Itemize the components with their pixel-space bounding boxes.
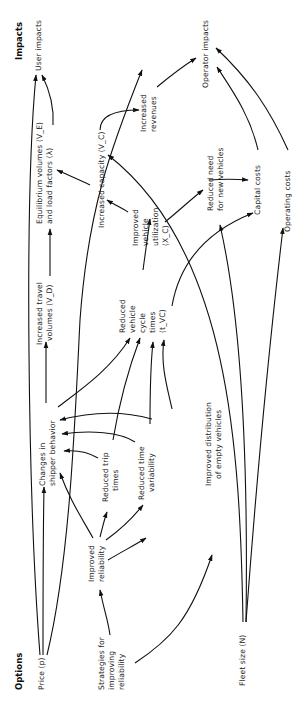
svg-text:reliability: reliability <box>97 545 106 582</box>
svg-text:Price (p): Price (p) <box>37 657 46 690</box>
flow-diagram: Options Impacts Price (p) Strategies for… <box>0 0 301 710</box>
node-fleet-size: Fleet size (N) <box>238 635 247 686</box>
edge-shipper-cycle <box>58 338 130 407</box>
svg-text:improving: improving <box>107 651 116 690</box>
node-improved-utilization: Improved vehicle utilization (X_C) <box>131 208 170 246</box>
edge-variability-cycle <box>150 342 153 424</box>
svg-text:(t_VC): (t_VC) <box>158 309 167 333</box>
svg-text:Operating costs: Operating costs <box>283 170 292 232</box>
node-increased-revenues: Increased revenues <box>139 94 158 132</box>
svg-text:cycle: cycle <box>138 313 147 333</box>
node-operator-impacts: Operator impacts <box>201 20 210 88</box>
svg-text:times: times <box>111 469 120 491</box>
node-improved-distribution: Improved distribution of empty vehicles <box>204 402 223 486</box>
edge-strategies-distribution <box>135 555 212 663</box>
svg-text:Options: Options <box>14 653 24 690</box>
svg-text:utilization: utilization <box>151 208 160 246</box>
edge-price-shipper <box>43 487 44 655</box>
edge-capacity-equilibrium <box>57 170 90 185</box>
edge-revenues-operator <box>157 58 196 87</box>
edge-trip-cycle <box>113 338 140 440</box>
svg-text:Capital costs: Capital costs <box>253 165 262 215</box>
svg-text:for new vehicles: for new vehicles <box>216 147 225 211</box>
node-capital-costs: Capital costs <box>253 165 262 215</box>
edge-reliability-trip <box>100 512 107 537</box>
svg-text:and load factors (λ): and load factors (λ) <box>45 148 54 224</box>
edge-reliability-distribution <box>108 538 146 560</box>
edge-capital-operator <box>217 67 258 150</box>
node-user-impacts: User impacts <box>34 20 43 71</box>
svg-text:volumes (V_D): volumes (V_D) <box>45 284 54 341</box>
svg-text:reliability: reliability <box>117 653 126 690</box>
node-improved-reliability: Improved reliability <box>87 545 106 582</box>
svg-text:Increased: Increased <box>139 94 148 132</box>
svg-text:Improved: Improved <box>87 545 96 582</box>
edge-fleet-need <box>220 225 246 622</box>
svg-text:Reduced need: Reduced need <box>206 155 215 211</box>
node-increased-capacity: Increased capacity (V_C) <box>97 132 106 228</box>
svg-text:Equilibrium volumes (V_E): Equilibrium volumes (V_E) <box>35 122 44 224</box>
svg-text:Fleet size (N): Fleet size (N) <box>238 635 247 686</box>
edge-distribution-cycle <box>163 340 172 409</box>
node-reduced-time-variability: Reduced time variability <box>137 446 156 500</box>
svg-text:Reduced: Reduced <box>118 299 127 333</box>
svg-text:times: times <box>148 311 157 333</box>
node-strategies: Strategies for improving reliability <box>97 636 126 690</box>
edges <box>29 48 288 663</box>
svg-text:of empty vehicles: of empty vehicles <box>214 410 223 479</box>
svg-text:Increased capacity (V_C): Increased capacity (V_C) <box>97 132 106 228</box>
header-options: Options <box>14 653 24 690</box>
svg-text:Increased travel: Increased travel <box>35 282 44 345</box>
node-changes-shipper: Changes in shipper behavior <box>38 420 57 486</box>
edge-fleet-capacity <box>108 155 243 622</box>
edge-reliability-variability <box>106 505 143 540</box>
svg-text:revenues: revenues <box>149 96 158 132</box>
svg-text:vehicle: vehicle <box>128 305 137 333</box>
node-equilibrium: Equilibrium volumes (V_E) and load facto… <box>35 122 54 224</box>
edge-fleet-operating <box>246 228 283 622</box>
edge-capacity-revenues <box>100 110 139 130</box>
svg-text:Reduced trip: Reduced trip <box>101 452 110 502</box>
svg-text:Changes in: Changes in <box>38 443 47 486</box>
edge-utilization-need <box>165 190 203 222</box>
header-impacts: Impacts <box>14 22 24 60</box>
diagram-canvas: Options Impacts Price (p) Strategies for… <box>0 0 301 710</box>
edge-operating-operator <box>216 48 288 150</box>
node-increased-travel: Increased travel volumes (V_D) <box>35 282 54 345</box>
node-price: Price (p) <box>37 657 46 690</box>
edge-utilization-capacity <box>107 200 128 212</box>
svg-text:vehicle: vehicle <box>141 218 150 246</box>
svg-text:Operator impacts: Operator impacts <box>201 20 210 88</box>
svg-text:Improved: Improved <box>131 209 140 246</box>
edge-equilibrium-user <box>42 75 53 125</box>
edge-trip-shipper <box>64 451 98 458</box>
edge-reliability-shipper <box>60 473 93 538</box>
edge-variability-shipper <box>62 432 135 442</box>
svg-text:(X_C): (X_C) <box>161 225 170 246</box>
svg-text:Strategies for: Strategies for <box>97 636 106 690</box>
edge-cycle-capital <box>172 213 253 306</box>
svg-text:Impacts: Impacts <box>14 22 24 60</box>
svg-text:variability: variability <box>147 453 156 492</box>
node-reduced-cycle-times: Reduced vehicle cycle times (t_VC) <box>118 299 167 333</box>
edge-distribution-shipper <box>60 413 152 420</box>
edge-strategies-reliability <box>100 590 110 635</box>
svg-text:shipper behavior: shipper behavior <box>48 420 57 486</box>
node-reduced-trip-times: Reduced trip times <box>101 452 120 502</box>
svg-text:User impacts: User impacts <box>34 20 43 71</box>
node-reduced-need: Reduced need for new vehicles <box>206 147 225 211</box>
node-operating-costs: Operating costs <box>283 170 292 232</box>
svg-text:Reduced time: Reduced time <box>137 446 146 500</box>
svg-text:Improved distribution: Improved distribution <box>204 402 213 486</box>
